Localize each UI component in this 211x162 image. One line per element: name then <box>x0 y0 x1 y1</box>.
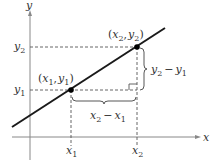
x-axis-arrow-icon <box>195 135 201 139</box>
y-axis-label: y <box>25 0 33 12</box>
x1-tick-label: x1 <box>66 144 77 159</box>
point-1-dot <box>68 87 74 93</box>
y1-tick-label: y1 <box>13 83 25 98</box>
guide-lines <box>30 47 137 146</box>
slope-diagram: y x (x1,y1) (x2,y2) y2 y1 x1 x2 x2−x1 y2… <box>0 0 211 162</box>
run-label: x2−x1 <box>90 109 126 124</box>
axes <box>12 10 201 160</box>
secant-line <box>12 28 165 127</box>
run-brace-icon <box>72 97 136 104</box>
y2-tick-label: y2 <box>13 40 25 55</box>
point-1-label: (x1,y1) <box>38 72 74 87</box>
point-2-dot <box>134 44 140 50</box>
rise-label: y2−y1 <box>150 63 187 78</box>
x-axis-label: x <box>203 131 210 144</box>
rise-brace-icon <box>140 48 147 90</box>
point-2-label: (x2,y2) <box>108 28 144 43</box>
x2-tick-label: x2 <box>132 144 143 159</box>
right-angle-marker <box>129 84 137 90</box>
